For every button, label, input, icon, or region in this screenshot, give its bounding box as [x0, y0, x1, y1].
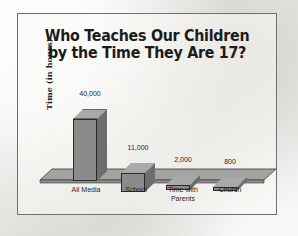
bar-school: 11,000: [121, 154, 155, 182]
bar-all-media: 40,000: [73, 100, 107, 180]
bar-value-school: 11,000: [128, 144, 149, 151]
plot-area: 40,000 All Media 11,000 School 2,000 Tim…: [18, 14, 278, 216]
bar-time-with-parents: 2,000: [166, 166, 200, 182]
bar-side-face-all-media: [97, 109, 107, 181]
bar-value-church: 800: [224, 158, 236, 165]
bar-value-all-media: 40,000: [79, 90, 100, 97]
category-label-church: Church: [200, 186, 260, 195]
chart-frame: Who Teaches Our Children by the Time The…: [17, 13, 277, 215]
bar-front-face-all-media: [73, 119, 97, 181]
bar-value-time-with-parents: 2,000: [174, 156, 192, 163]
bar-church: 800: [213, 168, 247, 182]
